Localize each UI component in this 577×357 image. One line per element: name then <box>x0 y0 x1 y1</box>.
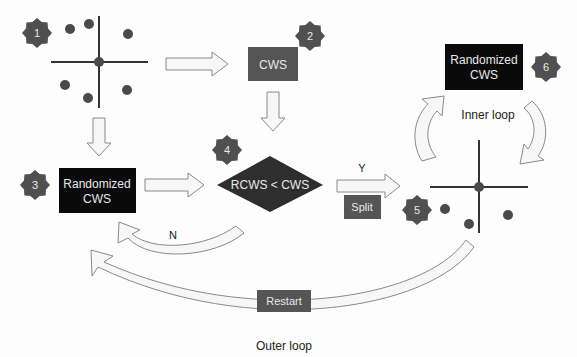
outer-loop-label: Outer loop <box>256 339 312 353</box>
data-point <box>122 85 132 95</box>
data-point <box>464 219 474 229</box>
step-badge-6: 6 <box>531 52 561 82</box>
scatter-plot-initial <box>51 16 148 108</box>
split-node: Split <box>344 195 381 219</box>
data-point <box>440 204 450 214</box>
svg-text:5: 5 <box>414 204 420 216</box>
cws-node: CWS <box>248 47 298 81</box>
data-point <box>84 19 94 29</box>
svg-text:2: 2 <box>307 30 313 42</box>
svg-text:6: 6 <box>543 61 549 73</box>
svg-text:CWS: CWS <box>259 58 287 72</box>
randomized-cws-node-right: Randomized CWS <box>445 44 523 90</box>
svg-text:RCWS < CWS: RCWS < CWS <box>231 178 309 192</box>
svg-text:1: 1 <box>34 27 40 39</box>
arrow-no-curve <box>118 222 244 254</box>
edge-label-yes: Y <box>358 162 366 174</box>
step-badge-2: 2 <box>295 21 325 51</box>
svg-text:4: 4 <box>224 144 230 156</box>
cws-split-flow-diagram: 1 CWS 2 Randomized CWS 3 RCWS < CWS <box>0 0 577 357</box>
inner-loop-arrow-down <box>520 101 546 164</box>
data-point <box>60 80 70 90</box>
data-point <box>83 93 93 103</box>
inner-loop-arrow-up <box>415 96 444 161</box>
data-point <box>123 29 133 39</box>
arrow-yes <box>337 174 400 198</box>
edge-label-no: N <box>169 229 177 241</box>
data-point <box>503 210 513 220</box>
data-point <box>65 24 75 34</box>
decision-node: RCWS < CWS <box>217 156 323 212</box>
restart-node: Restart <box>257 290 311 312</box>
svg-text:CWS: CWS <box>83 192 111 206</box>
svg-text:CWS: CWS <box>470 68 498 82</box>
randomized-cws-node-left: Randomized CWS <box>59 168 136 213</box>
arrow-down-to-randomized <box>87 118 111 156</box>
arrow-right-to-cws <box>166 52 228 76</box>
inner-loop-label: Inner loop <box>461 108 515 122</box>
arrow-down-to-decision <box>261 92 285 131</box>
step-badge-3: 3 <box>20 170 50 200</box>
svg-text:Randomized: Randomized <box>450 53 517 67</box>
svg-text:Split: Split <box>351 201 372 213</box>
scatter-plot-split <box>430 140 528 233</box>
step-badge-4: 4 <box>212 135 242 165</box>
arrow-right-to-decision <box>145 173 204 197</box>
svg-text:Restart: Restart <box>266 295 301 307</box>
step-badge-1: 1 <box>22 18 52 48</box>
svg-text:3: 3 <box>32 179 38 191</box>
step-badge-5: 5 <box>402 195 432 225</box>
svg-text:Randomized: Randomized <box>63 177 130 191</box>
